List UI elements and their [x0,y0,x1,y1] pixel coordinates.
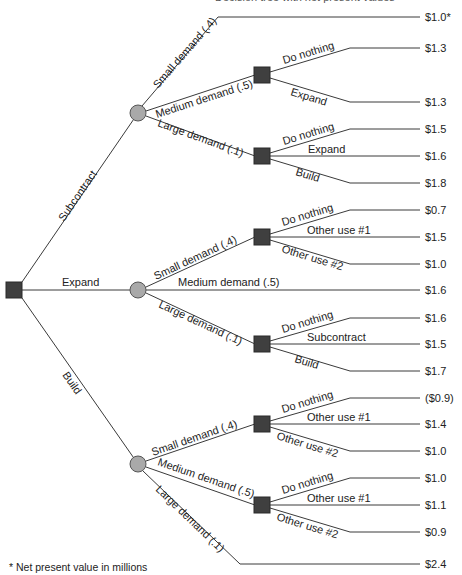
label-exp-large: Large demand (.1) [157,298,244,347]
payoff-value: $1.0* [425,11,451,23]
label-bld-sm-other-use-2: Other use #2 [275,429,339,459]
payoff-value: $1.3 [425,96,446,108]
label-sub-med-expand: Expand [289,85,328,107]
label-sub-lg-expand: Expand [308,143,345,155]
decision-node-exp-large [254,336,270,352]
payoff-value: $1.0 [425,472,446,484]
label-bld-md-other-use-1: Other use #1 [307,492,371,504]
payoff-value: $0.7 [425,204,446,216]
payoff-value: $0.9 [425,526,446,538]
label-sub-lg-build: Build [294,165,321,184]
chance-node-build [130,456,146,472]
label-bld-large: Large demand (.1) [154,483,227,554]
payoff-value: $1.0 [425,258,446,270]
payoff-value: $1.8 [425,177,446,189]
payoff-value: $2.4 [425,558,446,570]
payoff-value: $1.6 [425,150,446,162]
payoff-value: $1.1 [425,499,446,511]
decision-node-sub-large [254,148,270,164]
label-subcontract: Subcontract [56,168,99,223]
decision-node-sub-medium [254,67,270,83]
label-sub-large: Large demand (.1) [156,117,245,159]
decision-tree: Subcontract Expand Build Small demand (.… [0,0,462,575]
payoff-value: $1.5 [425,231,446,243]
root-decision-node [6,282,22,298]
payoff-value: $1.0 [425,445,446,457]
payoff-value: $1.3 [425,42,446,54]
label-exp-lg-subcontract: Subcontract [307,331,366,343]
payoff-value: ($0.9) [425,392,454,404]
branch-build [22,298,138,464]
decision-node-bld-medium [254,497,270,513]
label-exp-medium: Medium demand (.5) [178,276,280,288]
label-exp-lg-build: Build [293,352,320,371]
label-bld-md-other-use-2: Other use #2 [275,510,339,540]
decision-node-exp-small [254,229,270,245]
chance-node-expand [130,282,146,298]
label-exp-sm-other-use-1: Other use #1 [307,224,371,236]
label-sub-small: Small demand (.4) [150,15,218,91]
label-bld-small: Small demand (.4) [150,417,239,458]
payoff-value: $1.6 [425,284,446,296]
payoff-value: $1.6 [425,312,446,324]
label-sub-med-do-nothing: Do nothing [281,39,335,66]
label-sub-medium: Medium demand (.5) [154,77,254,120]
payoff-value: $1.4 [425,418,446,430]
payoff-value: $1.5 [425,123,446,135]
label-bld-sm-other-use-1: Other use #1 [307,411,371,423]
footnote: * Net present value in millions [9,561,147,573]
label-expand: Expand [62,276,99,288]
decision-node-bld-small [254,416,270,432]
label-exp-sm-other-use-2: Other use #2 [280,242,344,272]
label-build: Build [60,369,84,396]
payoff-value: $1.7 [425,365,446,377]
label-exp-small: Small demand (.4) [152,233,239,282]
chance-node-subcontract [130,105,146,121]
payoff-value: $1.5 [425,338,446,350]
